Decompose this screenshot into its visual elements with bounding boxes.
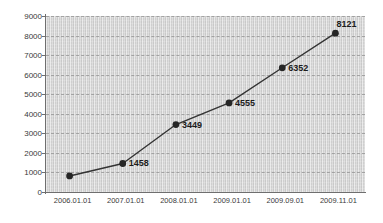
data-point-marker[interactable] xyxy=(226,100,233,107)
data-series-layer xyxy=(0,0,383,223)
series-markers xyxy=(66,30,339,180)
line-chart: 0100020003000400050006000700080009000 20… xyxy=(0,0,383,223)
data-point-marker[interactable] xyxy=(279,64,286,71)
data-point-label: 4555 xyxy=(235,98,255,108)
data-point-label: 8121 xyxy=(336,19,356,29)
data-point-marker[interactable] xyxy=(332,30,339,37)
data-point-marker[interactable] xyxy=(66,173,73,180)
data-point-label: 3449 xyxy=(182,120,202,130)
data-point-marker[interactable] xyxy=(173,121,180,128)
data-point-marker[interactable] xyxy=(119,160,126,167)
data-point-label: 1458 xyxy=(129,158,149,168)
data-point-label: 6352 xyxy=(288,63,308,73)
series-line xyxy=(70,33,336,176)
